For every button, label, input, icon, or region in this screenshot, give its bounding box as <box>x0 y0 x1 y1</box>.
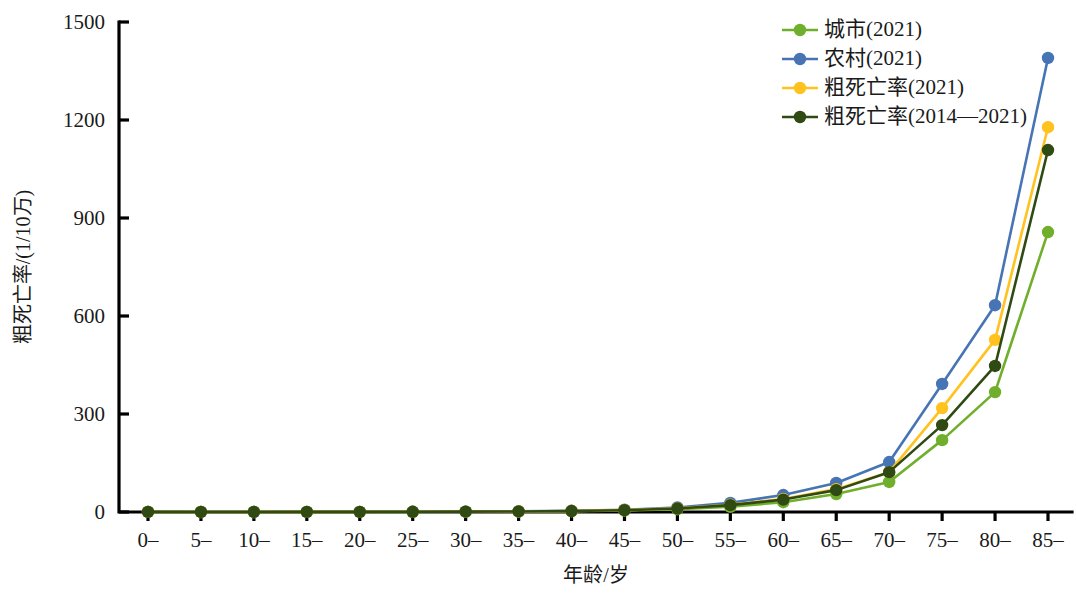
legend-marker <box>794 53 806 65</box>
x-tick-label: 25– <box>397 528 429 552</box>
y-tick-label: 900 <box>74 206 106 230</box>
y-tick-label: 1500 <box>63 10 105 34</box>
x-axis-tick-labels: 0–5–10–15–20–25–30–35–40–45–50–55–60–65–… <box>138 528 1065 552</box>
legend-label: 城市(2021) <box>824 17 922 41</box>
x-tick-label: 60– <box>768 528 800 552</box>
x-tick-label: 15– <box>291 528 323 552</box>
legend-item: 城市(2021) <box>782 17 922 41</box>
data-point <box>936 434 948 446</box>
data-point <box>777 493 789 505</box>
series-line <box>148 150 1048 512</box>
chart-container: 030060090012001500 0–5–10–15–20–25–30–35… <box>0 0 1077 593</box>
legend-item: 粗死亡率(2021) <box>782 75 964 99</box>
data-point <box>1042 144 1054 156</box>
y-axis-tick-labels: 030060090012001500 <box>63 10 105 524</box>
data-point <box>354 506 366 518</box>
data-point <box>301 506 313 518</box>
series-粗死亡率(2014—2021) <box>142 144 1054 518</box>
legend-marker <box>794 111 806 123</box>
data-point <box>830 484 842 496</box>
x-tick-label: 5– <box>190 528 212 552</box>
data-point <box>1042 226 1054 238</box>
x-tick-label: 20– <box>344 528 376 552</box>
y-tick-label: 300 <box>74 402 106 426</box>
data-point <box>936 378 948 390</box>
data-point <box>1042 121 1054 133</box>
legend-label: 粗死亡率(2014—2021) <box>824 104 1027 128</box>
data-point <box>936 402 948 414</box>
legend-item: 粗死亡率(2014—2021) <box>782 104 1027 128</box>
data-point <box>512 505 524 517</box>
data-point <box>1042 52 1054 64</box>
x-tick-label: 85– <box>1032 528 1064 552</box>
x-tick-label: 75– <box>926 528 958 552</box>
y-tick-label: 0 <box>95 500 106 524</box>
x-tick-label: 50– <box>662 528 694 552</box>
data-point <box>407 506 419 518</box>
y-axis-title: 粗死亡率/(1/10万) <box>12 190 35 344</box>
legend-item: 农村(2021) <box>782 46 922 70</box>
x-tick-label: 80– <box>979 528 1011 552</box>
data-point <box>989 386 1001 398</box>
legend-marker <box>794 82 806 94</box>
data-point <box>459 505 471 517</box>
data-point <box>142 506 154 518</box>
data-point <box>671 502 683 514</box>
y-tick-label: 600 <box>74 304 106 328</box>
x-tick-label: 35– <box>503 528 535 552</box>
x-tick-label: 0– <box>138 528 160 552</box>
data-point <box>989 360 1001 372</box>
x-tick-label: 65– <box>820 528 852 552</box>
legend: 城市(2021)农村(2021)粗死亡率(2021)粗死亡率(2014—2021… <box>782 17 1027 128</box>
data-point <box>883 466 895 478</box>
legend-marker <box>794 24 806 36</box>
data-point <box>618 504 630 516</box>
data-point <box>248 506 260 518</box>
legend-label: 粗死亡率(2021) <box>824 75 964 99</box>
x-tick-label: 45– <box>609 528 641 552</box>
x-tick-label: 70– <box>873 528 905 552</box>
x-axis-title: 年龄/岁 <box>563 564 629 586</box>
series-line <box>148 127 1048 512</box>
data-point <box>195 506 207 518</box>
x-tick-label: 10– <box>238 528 270 552</box>
x-tick-label: 30– <box>450 528 482 552</box>
series-城市(2021) <box>142 226 1054 518</box>
x-tick-label: 40– <box>556 528 588 552</box>
x-tick-label: 55– <box>715 528 747 552</box>
series-line <box>148 232 1048 512</box>
data-point <box>936 419 948 431</box>
data-point <box>724 499 736 511</box>
legend-label: 农村(2021) <box>824 46 922 70</box>
data-point <box>565 505 577 517</box>
y-tick-label: 1200 <box>63 108 105 132</box>
data-point <box>989 299 1001 311</box>
line-chart: 030060090012001500 0–5–10–15–20–25–30–35… <box>0 0 1077 593</box>
